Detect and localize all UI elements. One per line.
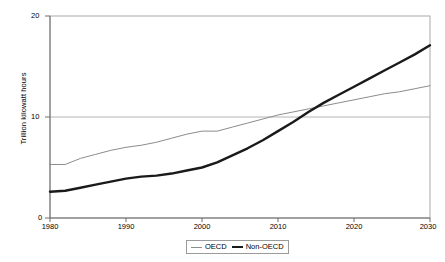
y-axis-tick-label-10: 10 [31,112,40,121]
y-axis-tick-label-0: 0 [38,213,42,222]
legend-line-swatch-oecd-icon [191,247,202,248]
x-axis-tick-label-2030: 2030 [420,222,437,231]
legend-item-non-oecd: Non-OECD [232,243,284,251]
x-axis-tick-label-2020: 2020 [346,222,363,231]
chart-canvas [0,0,445,262]
x-axis-tick-label-2000: 2000 [194,222,211,231]
x-tick-marks [50,218,430,222]
x-axis-tick-label-1980: 1980 [42,222,59,231]
y-axis-title: Trillion kilowatt hours [19,49,28,169]
legend-label-non-oecd: Non-OECD [246,243,284,251]
x-axis-tick-label-1990: 1990 [118,222,135,231]
chart-legend: OECD Non-OECD [186,240,289,254]
legend-label-oecd: OECD [205,243,227,251]
legend-line-swatch-non-oecd-icon [232,246,243,248]
y-axis-tick-label-20: 20 [31,11,40,20]
chart-container: Trillion kilowatt hours 20 10 0 1980 199… [0,0,445,262]
legend-item-oecd: OECD [191,243,227,251]
x-axis-tick-label-2010: 2010 [270,222,287,231]
